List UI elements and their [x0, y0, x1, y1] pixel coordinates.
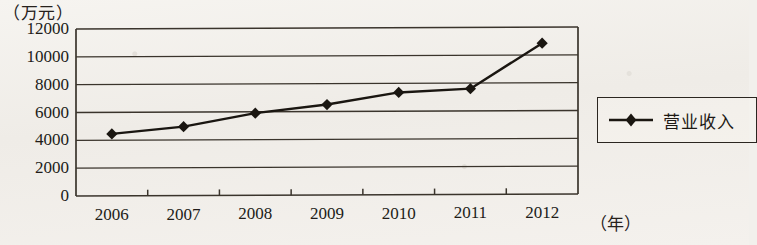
series-marker — [465, 83, 476, 94]
series-marker — [393, 87, 404, 98]
series-marker — [106, 128, 117, 139]
series-marker — [321, 99, 332, 110]
gridline — [76, 194, 578, 196]
y-tick-label: 2000 — [3, 158, 69, 178]
y-tick-label: 4000 — [3, 130, 69, 150]
x-tick-label: 2011 — [454, 203, 487, 223]
x-tick-label: 2007 — [167, 205, 201, 225]
legend-diamond-line-icon — [608, 112, 654, 128]
gridline — [76, 27, 578, 29]
plot-svg — [76, 29, 578, 196]
x-tick-label: 2008 — [238, 204, 272, 224]
y-tick-label: 6000 — [3, 103, 69, 123]
gridline — [76, 138, 578, 140]
x-tick-label: 2010 — [382, 204, 416, 224]
gridline — [76, 166, 578, 168]
x-tick-label: 2006 — [95, 205, 129, 225]
y-tick-label: 10000 — [3, 47, 69, 67]
gridline — [76, 83, 578, 85]
series-marker — [178, 121, 189, 132]
x-tick-label: 2012 — [525, 203, 559, 223]
y-tick-label: 0 — [3, 186, 69, 206]
series-marker — [537, 38, 548, 49]
y-tick-label: 8000 — [3, 75, 69, 95]
plot-area — [76, 29, 578, 196]
gridline — [76, 111, 578, 113]
chart-legend: 营业收入 — [597, 97, 757, 143]
x-axis-unit-label: （年） — [590, 210, 641, 235]
x-tick-label: 2009 — [310, 204, 344, 224]
gridline — [76, 55, 578, 57]
series-marker — [250, 108, 261, 119]
y-tick-label: 12000 — [3, 19, 69, 39]
legend-item-label: 营业收入 — [663, 108, 735, 133]
